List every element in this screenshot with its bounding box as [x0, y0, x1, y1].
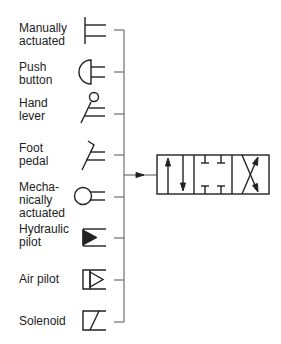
foot-pedal-icon	[82, 141, 105, 170]
push-button-icon	[79, 60, 105, 84]
air-pilot-icon	[83, 270, 106, 289]
flow-arrow	[124, 173, 157, 178]
solenoid-icon	[83, 311, 106, 330]
hand-lever-icon	[81, 93, 105, 124]
valve-position-closed	[201, 155, 225, 194]
valve-position-cross	[242, 155, 258, 194]
manual-lever-icon	[85, 17, 106, 44]
valve-symbol	[157, 155, 269, 194]
hydraulic-pilot-icon	[83, 229, 106, 246]
mechanical-roller-icon	[75, 188, 106, 205]
actuation-diagram	[0, 0, 281, 344]
valve-position-parallel	[166, 155, 186, 194]
